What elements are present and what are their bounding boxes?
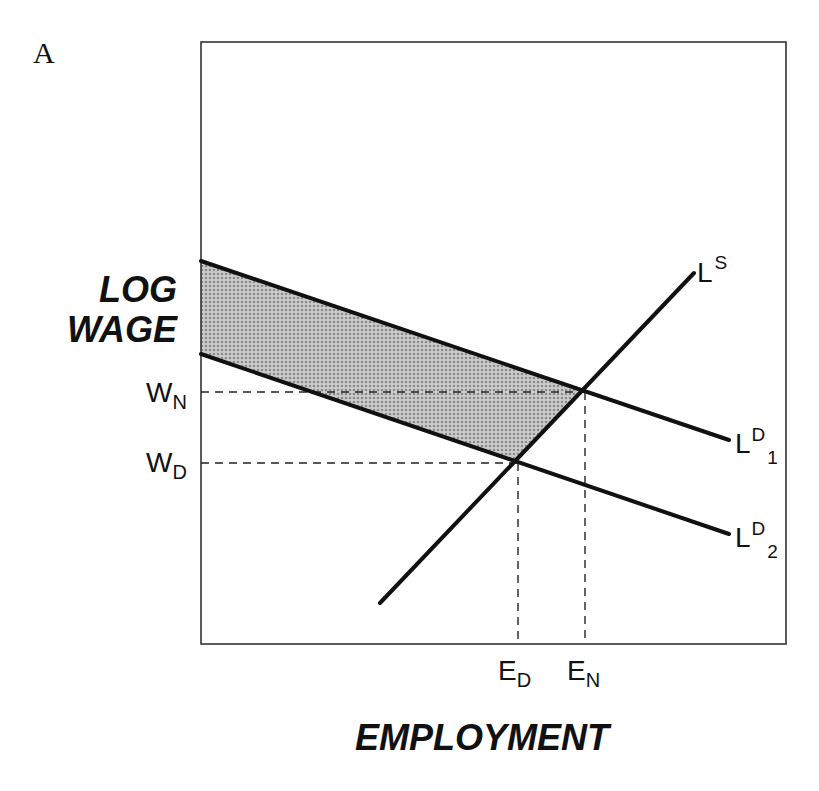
y-axis-title-line2: WAGE [67, 309, 178, 350]
x-tick-ed: ED [498, 655, 531, 691]
labor-market-diagram: A LOG WAGE WN WD ED EN EMPLOYMENT LS LD1… [0, 0, 819, 791]
y-axis-title-line1: LOG [99, 269, 177, 310]
labor-demand-1-label: LD1 [735, 424, 778, 468]
y-tick-wn: WN [146, 377, 187, 413]
y-tick-wd: WD [146, 447, 187, 483]
panel-label: A [33, 36, 55, 69]
x-tick-en: EN [567, 655, 600, 691]
x-axis-title: EMPLOYMENT [355, 717, 612, 758]
labor-demand-2-label: LD2 [735, 518, 778, 562]
shaded-wage-gap-region [201, 261, 584, 461]
labor-supply-label: LS [697, 252, 727, 288]
labor-supply-curve [380, 273, 694, 603]
